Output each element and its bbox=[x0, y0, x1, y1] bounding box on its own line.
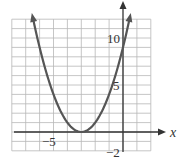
y-axis-arrow-icon bbox=[120, 1, 127, 9]
y-tick-label-5: 5 bbox=[113, 78, 120, 93]
curve-right-arrow-icon bbox=[125, 13, 132, 23]
y-tick-label-10: 10 bbox=[107, 31, 120, 46]
x-axis-arrow-icon bbox=[158, 129, 166, 136]
x-axis-label: x bbox=[169, 125, 177, 140]
x-tick-label-neg5: −5 bbox=[42, 134, 56, 149]
y-tick-label-neg2: −2 bbox=[106, 145, 120, 160]
parabola-chart: x −5 10 5 −2 bbox=[0, 0, 185, 168]
curve-left-arrow-icon bbox=[30, 13, 37, 23]
